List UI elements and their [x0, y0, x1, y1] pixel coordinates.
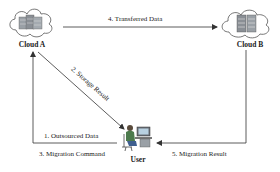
- cloud-a-icon: [10, 9, 52, 37]
- edge-migration-result: [157, 50, 246, 143]
- user-at-computer-icon: [122, 125, 152, 151]
- edge-storage-result: [38, 52, 124, 129]
- server-stack-icon: [19, 15, 42, 29]
- edge-label-migration-result: 5. Migration Result: [172, 151, 227, 158]
- cloud-a-label: Cloud A: [19, 41, 45, 49]
- cloud-b-icon: [222, 10, 269, 38]
- edge-label-transferred-data: 4. Transferred Data: [108, 16, 162, 23]
- cloud-b-label: Cloud B: [237, 41, 263, 49]
- user-label: User: [131, 156, 146, 164]
- edge-label-migration-command: 3. Migration Command: [39, 151, 105, 158]
- edge-label-outsourced-data: 1. Outsourced Data: [44, 133, 98, 140]
- diagram-canvas: [0, 0, 280, 172]
